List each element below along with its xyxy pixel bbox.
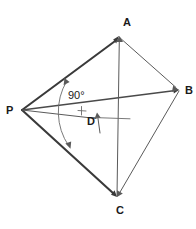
label-point-b: B [185, 84, 193, 96]
vector-diagram-svg: A B C D P 90° [0, 0, 196, 229]
label-point-d: D [87, 115, 95, 127]
label-angle-p: 90° [68, 89, 85, 101]
segment-BC [117, 91, 179, 197]
label-point-p: P [6, 104, 13, 116]
segment-PB [22, 87, 179, 110]
label-point-a: A [123, 16, 131, 28]
d-horizontal-guide [93, 118, 130, 119]
d-vertical-arrow [95, 113, 101, 134]
angle-arc-tick [78, 107, 86, 116]
segment-AB [119, 37, 179, 92]
segment-PC [22, 110, 117, 197]
label-point-c: C [116, 204, 124, 216]
segment-CA [116, 36, 123, 196]
geometry-diagram-canvas: A B C D P 90° [0, 0, 196, 229]
